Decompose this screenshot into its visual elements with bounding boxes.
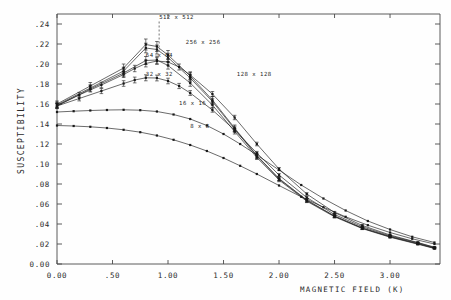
y-tick-label: 0.00 [30,260,50,269]
x-tick-label: 0.00 [47,271,67,280]
y-tick-label: .08 [35,180,50,189]
x-tick-label: 1.00 [158,271,178,280]
chart-canvas: 0.00.501.001.502.002.503.00 0.00.02.04.0… [0,0,451,300]
y-tick-label: .20 [35,60,50,69]
series-64x64 [55,58,436,249]
series-label: 8 x 8 [190,123,209,129]
x-axis-title: MAGNETIC FIELD (K) [300,285,405,294]
series-128x128 [55,56,436,249]
y-tick-label: .24 [35,20,50,29]
series-label: 32 x 32 [146,71,173,77]
y-axis-ticks: 0.00.02.04.06.08.10.12.14.16.18.20.22.24 [30,20,440,269]
series-label: 16 x 16 [179,100,206,106]
x-tick-label: 2.50 [324,271,344,280]
y-tick-label: .16 [35,100,50,109]
y-tick-label: .06 [35,200,50,209]
y-axis-title: SUSCEPTIBILITY [17,66,26,196]
x-tick-label: 3.00 [380,271,400,280]
series-label: 512 x 512 [159,14,194,20]
y-tick-label: .04 [35,220,50,229]
x-tick-label: 1.50 [213,271,233,280]
series-label: 64 x 64 [146,52,173,58]
y-tick-label: .10 [35,160,50,169]
series-label: 128 x 128 [237,71,272,77]
y-tick-label: .18 [35,80,50,89]
y-tick-label: .22 [35,40,50,49]
x-axis-ticks: 0.00.501.001.502.002.503.00 [47,14,401,280]
y-tick-label: .12 [35,140,50,149]
series-32x32 [55,75,436,249]
y-tick-label: .02 [35,240,50,249]
figure: 0.00.501.001.502.002.503.00 0.00.02.04.0… [0,0,451,300]
series-label: 256 x 256 [186,39,221,45]
x-tick-label: .50 [105,271,120,280]
x-tick-label: 2.00 [269,271,289,280]
y-tick-label: .14 [35,120,50,129]
series-annotations: 512 x 512256 x 256128 x 12864 x 6432 x 3… [146,14,272,129]
